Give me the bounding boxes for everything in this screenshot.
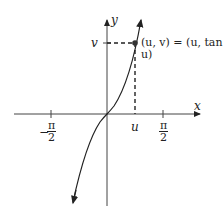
neg-half-pi-den: 2 [47, 132, 56, 143]
x-axis-label: x [194, 100, 201, 112]
u-label: u [131, 121, 139, 133]
point-u-v [132, 40, 138, 46]
graph-canvas [0, 0, 223, 218]
tan-curve-lower-arrow [73, 190, 76, 203]
y-axis-label: y [111, 14, 118, 26]
pos-half-pi-label: π 2 [159, 120, 168, 143]
v-label: v [91, 37, 98, 49]
neg-half-pi-label: π 2 [47, 120, 56, 143]
point-label: (u, v) = (u, tan u) [141, 37, 223, 61]
pos-half-pi-den: 2 [159, 132, 168, 143]
